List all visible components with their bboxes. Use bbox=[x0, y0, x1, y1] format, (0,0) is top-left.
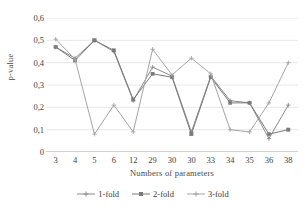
x-axis-tick: 12 bbox=[129, 156, 138, 165]
legend-item-2-fold[interactable]: 2-fold bbox=[131, 189, 174, 199]
data-point-2-fold-11 bbox=[267, 132, 270, 135]
legend-item-1-fold[interactable]: 1-fold bbox=[76, 189, 119, 199]
series-2-fold bbox=[54, 39, 290, 136]
y-axis-title: p-value bbox=[5, 35, 15, 99]
x-axis-tick-labels: 3456122930303334353638 bbox=[46, 154, 298, 168]
x-axis-tick: 4 bbox=[73, 156, 77, 165]
data-point-2-fold-4 bbox=[132, 98, 135, 101]
chart-canvas bbox=[46, 18, 298, 152]
data-point-1-fold-5 bbox=[150, 65, 154, 69]
x-axis-tick: 33 bbox=[207, 156, 216, 165]
data-point-2-fold-3 bbox=[112, 49, 115, 52]
y-axis-tick-labels: 00,10,20,30,40,50,6 bbox=[22, 14, 44, 156]
data-point-3-fold-9 bbox=[228, 127, 232, 131]
data-point-1-fold-11 bbox=[267, 136, 271, 140]
x-axis-tick: 35 bbox=[245, 156, 254, 165]
legend-label: 1-fold bbox=[98, 189, 119, 199]
series-line-1-fold bbox=[56, 40, 289, 138]
y-axis-tick: 0,2 bbox=[33, 103, 44, 112]
series-line-3-fold bbox=[56, 39, 289, 134]
y-axis-tick: 0 bbox=[40, 148, 44, 157]
x-axis-tick: 3 bbox=[54, 156, 58, 165]
data-point-2-fold-0 bbox=[54, 45, 57, 48]
y-axis-tick: 0,3 bbox=[33, 81, 44, 90]
y-axis-tick: 0,4 bbox=[33, 58, 44, 67]
x-axis-tick: 36 bbox=[265, 156, 274, 165]
gridlines bbox=[46, 18, 298, 152]
plot-area bbox=[46, 18, 298, 152]
data-point-2-fold-9 bbox=[228, 101, 231, 104]
legend-label: 2-fold bbox=[153, 189, 174, 199]
y-axis-tick: 0,1 bbox=[33, 125, 44, 134]
series-3-fold bbox=[53, 37, 290, 136]
x-axis-tick: 6 bbox=[112, 156, 116, 165]
x-axis-tick: 30 bbox=[168, 156, 177, 165]
x-axis-title: Numbers of parameters bbox=[46, 168, 298, 178]
data-point-2-fold-5 bbox=[151, 72, 154, 75]
legend-marker-cross-icon bbox=[186, 189, 206, 199]
legend-marker-cross-icon bbox=[76, 189, 96, 199]
y-axis-tick: 0,5 bbox=[33, 36, 44, 45]
x-axis-tick: 30 bbox=[187, 156, 196, 165]
y-axis-tick: 0,6 bbox=[33, 14, 44, 23]
data-point-2-fold-2 bbox=[93, 39, 96, 42]
x-axis-tick: 34 bbox=[226, 156, 235, 165]
data-point-3-fold-12 bbox=[286, 60, 290, 64]
legend-label: 3-fold bbox=[208, 189, 229, 199]
data-point-2-fold-10 bbox=[248, 101, 251, 104]
legend-item-3-fold[interactable]: 3-fold bbox=[186, 189, 229, 199]
chart-figure: p-value 00,10,20,30,40,50,6 345612293030… bbox=[0, 0, 305, 209]
x-axis-tick: 29 bbox=[148, 156, 157, 165]
chart-legend: 1-fold2-fold3-fold bbox=[0, 186, 305, 202]
x-axis-tick: 38 bbox=[284, 156, 293, 165]
data-point-1-fold-12 bbox=[286, 103, 290, 107]
data-point-2-fold-7 bbox=[190, 132, 193, 135]
x-axis-tick: 5 bbox=[92, 156, 96, 165]
legend-marker-square-icon bbox=[131, 189, 151, 199]
series-1-fold bbox=[53, 38, 290, 141]
data-point-2-fold-12 bbox=[287, 128, 290, 131]
